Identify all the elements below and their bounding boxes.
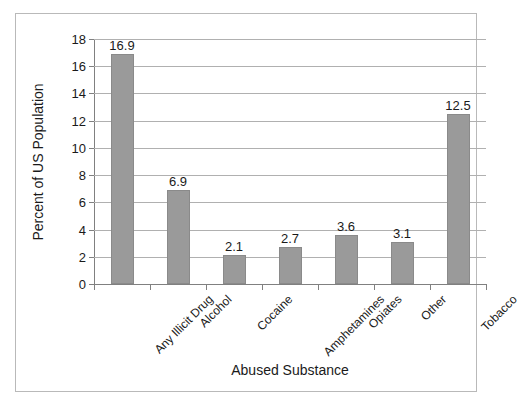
gridline — [94, 39, 486, 40]
y-axis-tick-label: 18 — [72, 33, 86, 46]
y-axis-tick-label: 4 — [79, 223, 86, 236]
y-axis-tick — [89, 257, 94, 258]
y-axis-tick-label: 8 — [79, 169, 86, 182]
gridline — [94, 175, 486, 176]
bar[interactable]: 2.7 — [279, 247, 302, 284]
y-axis-tick-label: 10 — [72, 141, 86, 154]
chart-frame: Percent of US Population 024681012141618… — [15, 13, 477, 392]
x-axis-tick — [150, 284, 151, 290]
y-axis-tick-label: 2 — [79, 250, 86, 263]
y-axis-tick — [89, 121, 94, 122]
gridline — [94, 93, 486, 94]
y-axis-tick-label: 0 — [79, 278, 86, 291]
bar-value-label: 3.1 — [393, 227, 411, 240]
bar[interactable]: 3.6 — [335, 235, 358, 284]
y-axis-tick-label: 16 — [72, 60, 86, 73]
bar[interactable]: 3.1 — [391, 242, 414, 284]
x-axis-category-label: Cocaine — [255, 293, 295, 333]
x-axis-tick — [94, 284, 95, 290]
gridline — [94, 121, 486, 122]
bar[interactable]: 12.5 — [447, 114, 470, 284]
bar-value-label: 2.7 — [281, 232, 299, 245]
bar[interactable]: 16.9 — [111, 54, 134, 284]
x-axis-tick — [430, 284, 431, 290]
x-axis-tick — [206, 284, 207, 290]
plot-area: 024681012141618 16.96.92.12.73.63.112.5 … — [94, 39, 486, 284]
y-axis-tick — [89, 230, 94, 231]
bar[interactable]: 6.9 — [167, 190, 190, 284]
gridline — [94, 202, 486, 203]
gridline — [94, 148, 486, 149]
y-axis-tick — [89, 148, 94, 149]
y-axis-tick — [89, 66, 94, 67]
bar[interactable]: 2.1 — [223, 255, 246, 284]
y-axis-tick-label: 14 — [72, 87, 86, 100]
y-axis-tick — [89, 93, 94, 94]
x-axis-tick — [262, 284, 263, 290]
x-axis-title: Abused Substance — [94, 362, 486, 378]
bar-value-label: 12.5 — [445, 99, 470, 112]
y-axis-tick — [89, 39, 94, 40]
x-axis-tick — [486, 284, 487, 290]
y-axis-tick-label: 12 — [72, 114, 86, 127]
y-axis-tick — [89, 202, 94, 203]
bar-value-label: 3.6 — [337, 220, 355, 233]
y-axis-title: Percent of US Population — [28, 39, 48, 285]
y-axis-tick — [89, 175, 94, 176]
x-axis-tick — [318, 284, 319, 290]
bar-value-label: 6.9 — [169, 175, 187, 188]
x-axis-category-label: Tobacco — [479, 293, 519, 333]
x-axis-tick — [374, 284, 375, 290]
gridline — [94, 66, 486, 67]
y-axis-tick-label: 6 — [79, 196, 86, 209]
bar-value-label: 2.1 — [225, 240, 243, 253]
bar-value-label: 16.9 — [109, 39, 134, 52]
gridline — [94, 284, 486, 285]
y-axis-title-text: Percent of US Population — [30, 83, 46, 240]
x-axis-category-label: Other — [419, 293, 449, 323]
